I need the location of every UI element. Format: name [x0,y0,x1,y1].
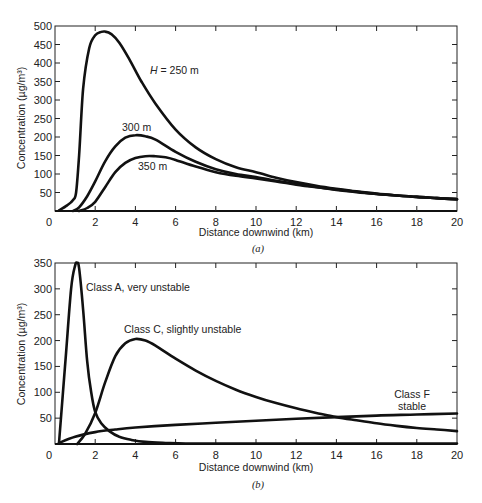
x-tick-label: 20 [451,216,463,228]
x-tick-label: 18 [411,216,423,228]
x-tick-label: 0 [46,449,52,461]
y-tick-label: 100 [34,386,52,398]
x-tick-label: 4 [132,449,138,461]
x-axis-label-a: Distance downwind (km) [199,226,313,238]
x-tick-label: 20 [451,449,463,461]
y-tick-label: 50 [40,187,52,199]
x-tick-label: 6 [173,216,179,228]
annotation-h250: H = 250 m [150,64,199,76]
curve-h-250-m [59,31,457,210]
y-tick-label: 50 [40,412,52,424]
plot-frame-a [55,26,457,211]
y-tick-label: 400 [34,57,52,69]
annotation-class-c: Class C, slightly unstable [124,323,241,335]
y-tick-label: 350 [34,76,52,88]
x-tick-label: 6 [173,449,179,461]
x-tick-label: 4 [132,216,138,228]
y-tick-label: 500 [34,20,52,32]
curve-300-m [73,135,457,211]
y-tick-label: 200 [34,335,52,347]
caption-b: (b) [252,479,265,491]
annotation-h300: 300 m [122,121,151,133]
x-tick-label: 18 [411,449,423,461]
x-tick-label: 0 [46,216,52,228]
caption-a: (a) [252,243,265,255]
annotation-class-a: Class A, very unstable [86,281,190,293]
chart-panel-a: 0246810121416182050100150200250300350400… [15,20,463,255]
x-tick-label: 16 [370,449,382,461]
y-axis-label-b: Concentration (µg/m³) [15,303,27,405]
curve-350-m [79,156,457,211]
y-tick-label: 250 [34,309,52,321]
y-tick-label: 350 [34,257,52,269]
x-tick-label: 16 [370,216,382,228]
x-tick-label: 12 [290,449,302,461]
y-tick-label: 300 [34,94,52,106]
annotation-class-f-line2: stable [398,400,426,412]
x-tick-label: 8 [213,449,219,461]
curve-class-f [59,414,457,444]
annotation-h350: 350 m [138,160,167,172]
y-tick-label: 200 [34,131,52,143]
chart-panel-b: 0246810121416182050100150200250300350 Cl… [15,257,463,491]
curves-a [59,31,457,211]
y-tick-label: 300 [34,283,52,295]
y-tick-label: 450 [34,39,52,51]
x-tick-label: 2 [92,449,98,461]
x-axis-label-b: Distance downwind (km) [199,461,313,473]
x-tick-label: 14 [330,216,342,228]
y-tick-label: 250 [34,113,52,125]
x-tick-label: 14 [330,449,342,461]
annotation-class-f-line1: Class F [394,388,430,400]
figure: 0246810121416182050100150200250300350400… [0,0,482,503]
y-tick-label: 150 [34,360,52,372]
y-tick-label: 100 [34,168,52,180]
x-tick-label: 2 [92,216,98,228]
y-tick-label: 150 [34,150,52,162]
y-axis-label-a: Concentration (µg/m³) [15,67,27,169]
x-tick-label: 10 [250,449,262,461]
